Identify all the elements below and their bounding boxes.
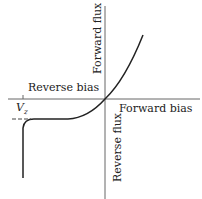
vz-symbol: V <box>16 101 24 114</box>
reverse-curve <box>23 99 105 178</box>
forward-curve <box>105 35 143 99</box>
reverse-bias-label: Reverse bias <box>28 81 99 94</box>
forward-flux-label: Forward flux <box>91 3 104 74</box>
forward-bias-label: Forward bias <box>119 102 192 115</box>
reverse-flux-label: Reverse flux <box>111 113 124 182</box>
vz-label: Vz <box>16 101 28 116</box>
diode-characteristic-diagram: Forward flux Reverse flux Reverse bias F… <box>0 0 202 199</box>
vz-subscript: z <box>24 108 28 116</box>
